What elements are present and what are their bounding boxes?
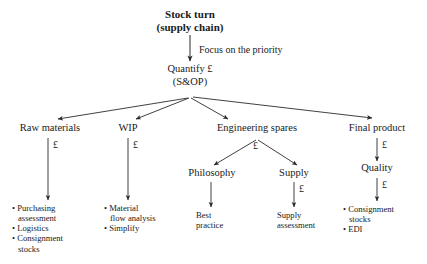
list-item-cont: stocks	[343, 214, 395, 224]
node-supply: Supply	[270, 167, 318, 180]
list-item: • Logistics	[12, 223, 64, 233]
edge-engineering-to-philosophy	[214, 140, 256, 165]
cost-label-supply: £	[299, 183, 304, 194]
node-final-product: Final product	[335, 122, 419, 135]
node-quantify-line1: Quantify £	[145, 63, 235, 76]
outcome-supply-assessment: Supply assessment	[277, 210, 315, 230]
list-item: • Simplify	[104, 223, 156, 233]
cost-label-raw-materials: £	[53, 139, 58, 150]
node-raw-materials: Raw materials	[8, 122, 92, 135]
edge-engineering-to-supply	[258, 140, 297, 165]
stock-turn-diagram: Stock turn (supply chain) Focus on the p…	[0, 0, 427, 264]
node-stock-turn-line2: (supply chain)	[133, 21, 247, 34]
list-item: • Consignment	[343, 204, 395, 214]
edge-quantify-to-engineering-spares	[191, 98, 228, 119]
list-item-cont: assessment	[12, 213, 64, 223]
bullet-list-raw-materials: • Purchasing assessment • Logistics • Co…	[12, 203, 64, 254]
cost-label-engineering-spares: £	[253, 140, 258, 151]
bullet-list-final-product: • Consignment stocks • EDI	[343, 204, 395, 234]
node-stock-turn: Stock turn (supply chain)	[133, 8, 247, 35]
bullet-list-wip: • Material flow analysis • Simplify	[104, 203, 156, 233]
list-item: • EDI	[343, 224, 395, 234]
list-item-cont: flow analysis	[104, 213, 156, 223]
node-stock-turn-line1: Stock turn	[133, 8, 247, 21]
outcome-line1: Best	[196, 210, 223, 220]
outcome-best-practice: Best practice	[196, 210, 223, 230]
cost-label-wip: £	[133, 139, 138, 150]
edge-note-focus-on-priority: Focus on the priority	[199, 44, 283, 55]
outcome-line2: practice	[196, 220, 223, 230]
cost-label-final-product: £	[382, 139, 387, 150]
outcome-line2: assessment	[277, 220, 315, 230]
node-philosophy: Philosophy	[180, 167, 244, 180]
node-wip: WIP	[104, 122, 152, 135]
list-item-cont: stocks	[12, 244, 64, 254]
node-quality: Quality	[347, 162, 407, 175]
outcome-line1: Supply	[277, 210, 315, 220]
edge-quantify-to-raw-materials	[58, 98, 188, 119]
edge-quantify-to-wip	[136, 98, 189, 119]
list-item: • Consignment	[12, 233, 64, 243]
node-engineering-spares: Engineering spares	[200, 122, 314, 135]
list-item: • Purchasing	[12, 203, 64, 213]
node-quantify-line2: (S&OP)	[145, 76, 235, 89]
list-item: • Material	[104, 203, 156, 213]
node-quantify: Quantify £ (S&OP)	[145, 63, 235, 89]
cost-label-quality: £	[382, 179, 387, 190]
